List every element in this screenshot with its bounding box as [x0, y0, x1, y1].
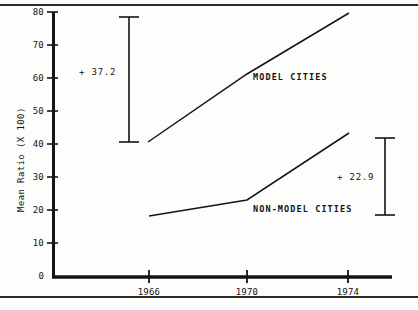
chart-canvas	[0, 0, 418, 310]
y-axis-title: Mean Ratio (X 100)	[16, 107, 26, 212]
x-tick-label-1970: 1970	[227, 288, 267, 297]
series-label-non-model-cities: NON-MODEL CITIES	[253, 204, 352, 214]
errorbar-model-cities	[119, 17, 139, 142]
y-tick-label-60: 60	[22, 74, 44, 83]
y-tick-label-80: 80	[22, 8, 44, 17]
y-tick-label-10: 10	[22, 239, 44, 248]
errorbar-label-model-cities: + 37.2	[79, 67, 116, 77]
line-chart: 80 70 60 50 40 30 20 10 0 1966 1970 1974…	[0, 0, 418, 310]
errorbar-label-non-model-cities: + 22.9	[337, 172, 374, 182]
y-tick-label-70: 70	[22, 41, 44, 50]
x-tick-label-1974: 1974	[328, 288, 368, 297]
y-tick-label-0: 0	[22, 272, 44, 281]
series-label-model-cities: MODEL CITIES	[253, 72, 328, 82]
x-tick-label-1966: 1966	[129, 288, 169, 297]
errorbar-non-model-cities	[375, 138, 395, 215]
